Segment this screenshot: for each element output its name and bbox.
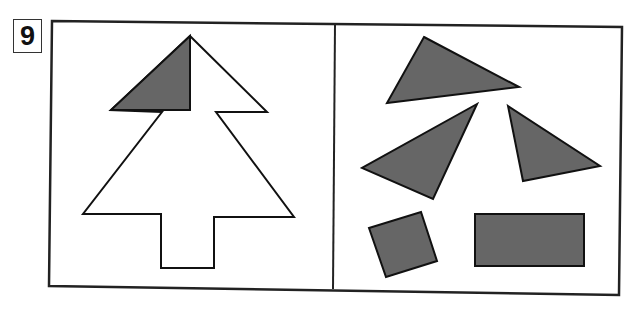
panel-divider [333, 24, 335, 289]
triangle-2-piece[interactable] [362, 104, 477, 199]
triangle-3-piece[interactable] [508, 106, 600, 181]
square-piece[interactable] [369, 212, 437, 277]
rectangle-piece[interactable] [475, 214, 584, 266]
triangle-1-piece[interactable] [387, 37, 519, 103]
right-panel [362, 37, 600, 277]
left-panel [83, 36, 294, 268]
puzzle-diagram [0, 0, 632, 313]
placed-triangle-piece[interactable] [111, 36, 190, 110]
